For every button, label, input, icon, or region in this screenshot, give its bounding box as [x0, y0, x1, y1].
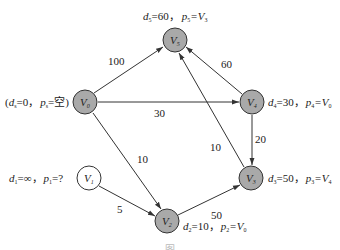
weight-v3-v5: 10: [210, 141, 222, 153]
node-v4: V4: [240, 90, 264, 114]
annotation-v5: d5=60，p5=V3: [143, 10, 207, 23]
node-v5: V5: [163, 28, 187, 52]
weight-v4-v3: 20: [255, 133, 267, 145]
svg-text:(ds=0，ps=空): (ds=0，ps=空): [5, 95, 69, 109]
edge-v1-v2: [99, 186, 155, 216]
svg-text:d3=50，p3=V4: d3=50，p3=V4: [268, 172, 331, 185]
svg-text:d5=60，p5=V3: d5=60，p5=V3: [143, 10, 207, 23]
annotation-v1: d1=∞，p1=?: [9, 172, 63, 185]
edge-v4-v5: [186, 47, 242, 94]
svg-text:d4=30，p4=V0: d4=30，p4=V0: [268, 96, 331, 109]
node-v1: V1: [77, 166, 101, 190]
svg-text:d2=10，p2=V0: d2=10，p2=V0: [183, 220, 246, 233]
weight-v4-v5: 60: [221, 58, 233, 70]
edge-v2-v3: [178, 185, 240, 215]
weight-v1-v2: 5: [117, 203, 123, 215]
graph-diagram: 100 30 10 60 20 10 5 50 V5 V0 V4 V3 V: [0, 0, 340, 250]
node-v0: V0: [73, 90, 97, 114]
node-v2: V2: [155, 209, 179, 233]
annotation-v2: d2=10，p2=V0: [183, 220, 246, 233]
weight-v0-v4: 30: [154, 107, 166, 119]
edge-v0-v2: [93, 113, 161, 209]
figure-caption: 图: [0, 241, 340, 250]
svg-text:d1=∞，p1=?: d1=∞，p1=?: [9, 172, 63, 185]
annotation-v0: (ds=0，ps=空): [5, 95, 69, 109]
annotation-v3: d3=50，p3=V4: [268, 172, 331, 185]
weight-v0-v2: 10: [137, 153, 149, 165]
annotation-v4: d4=30，p4=V0: [268, 96, 331, 109]
figure-caption-text: 图: [0, 241, 340, 250]
node-v3: V3: [239, 166, 263, 190]
edge-weights: 100 30 10 60 20 10 5 50: [108, 55, 267, 221]
edge-v0-v5: [94, 47, 163, 93]
edges: [93, 47, 252, 216]
weight-v0-v5: 100: [108, 55, 125, 67]
